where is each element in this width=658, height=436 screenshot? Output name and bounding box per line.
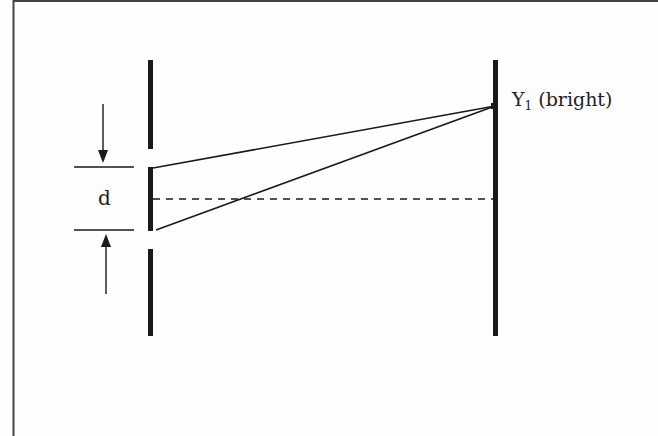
arrow-down-icon [98,104,108,163]
fringe-point-marker [491,103,497,109]
fringe-description: (bright) [538,88,612,110]
diagram-canvas: d Y1 (bright) [0,0,658,436]
viewing-screen [493,60,498,336]
ray-lower-slit [156,106,495,230]
slit-barrier [148,60,153,336]
arrow-up-icon [101,234,111,294]
fringe-symbol: Y [512,88,525,110]
ray-upper-slit [153,106,495,168]
slit-separation-label: d [98,186,111,210]
bright-fringe-label: Y1 (bright) [512,88,612,113]
double-slit-diagram [0,0,658,436]
fringe-subscript: 1 [525,99,533,113]
